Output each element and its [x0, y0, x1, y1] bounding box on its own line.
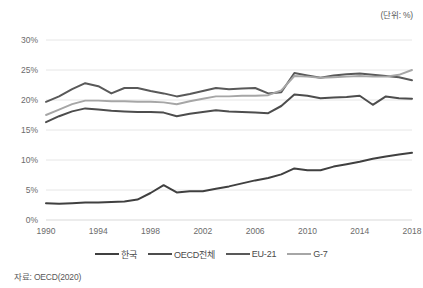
legend-item-OECD전체[interactable]: OECD전체	[148, 248, 215, 261]
x-axis-tick-label: 2018	[392, 226, 423, 236]
chart-legend: 한국OECD전체EU-21G-7	[0, 246, 423, 262]
legend-line-swatch	[95, 253, 119, 255]
x-axis-tick-label: 1994	[78, 226, 118, 236]
legend-label: OECD전체	[174, 248, 215, 261]
plot-area: 0%5%10%15%20%25%30% 19901994199820022006…	[0, 0, 423, 240]
series-lines	[46, 70, 412, 204]
y-axis-tick-label: 15%	[8, 125, 38, 135]
series-line-OECD전체	[46, 95, 412, 123]
y-axis-tick-label: 0%	[8, 215, 38, 225]
legend-line-swatch	[148, 253, 172, 255]
chart-figure: (단위: %) 0%5%10%15%20%25%30% 199019941998…	[0, 0, 423, 288]
series-line-EU-21	[46, 73, 412, 102]
legend-label: 한국	[121, 248, 137, 261]
legend-label: G-7	[313, 249, 327, 259]
legend-item-한국[interactable]: 한국	[95, 248, 137, 261]
x-axis-tick-label: 2006	[235, 226, 275, 236]
legend-line-swatch	[226, 253, 250, 255]
gridlines	[46, 40, 412, 220]
legend-line-swatch	[287, 253, 311, 255]
legend-label: EU-21	[252, 249, 277, 259]
y-axis-tick-label: 25%	[8, 65, 38, 75]
chart-svg	[0, 0, 423, 240]
legend-item-EU-21[interactable]: EU-21	[226, 249, 277, 259]
x-axis-tick-label: 2014	[340, 226, 380, 236]
source-note: 자료: OECD(2020)	[14, 270, 81, 282]
series-line-G-7	[46, 70, 412, 115]
y-axis-tick-label: 20%	[8, 95, 38, 105]
x-axis-tick-label: 1998	[131, 226, 171, 236]
x-axis-tick-label: 2010	[287, 226, 327, 236]
y-axis-tick-label: 10%	[8, 155, 38, 165]
x-axis-tick-label: 2002	[183, 226, 223, 236]
y-axis-tick-label: 30%	[8, 35, 38, 45]
y-axis-tick-label: 5%	[8, 185, 38, 195]
legend-item-G-7[interactable]: G-7	[287, 249, 327, 259]
x-axis-tick-label: 1990	[26, 226, 66, 236]
